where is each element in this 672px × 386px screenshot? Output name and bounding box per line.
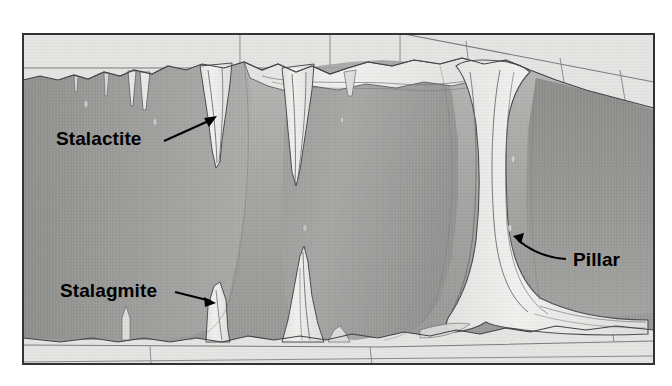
stalagmite-label: Stalagmite (60, 280, 157, 301)
cave-cross-section-svg: Stalactite Stalagmite Pillar (0, 0, 672, 386)
pillar-label: Pillar (573, 249, 621, 270)
cave-diagram-figure: Stalactite Stalagmite Pillar (0, 0, 672, 386)
diagram-canvas (23, 34, 654, 364)
stalactite-label: Stalactite (56, 128, 141, 149)
scan-texture-overlay (23, 34, 654, 364)
